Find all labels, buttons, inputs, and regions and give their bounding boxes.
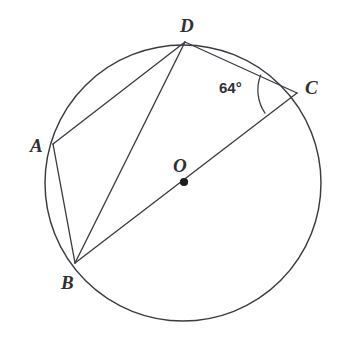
- chord-bd-line: [75, 42, 185, 263]
- angle-measure-label: 64°: [219, 80, 242, 95]
- chord-ab-line: [53, 144, 75, 263]
- vertex-label-b: B: [61, 273, 74, 292]
- center-point-dot: [180, 178, 188, 186]
- circle-geometry-canvas: [0, 0, 339, 342]
- geometry-figure: A B C D O 64°: [0, 0, 339, 342]
- vertex-label-d: D: [180, 16, 194, 35]
- vertex-label-c: C: [305, 78, 318, 97]
- center-label-o: O: [173, 156, 187, 175]
- vertex-label-a: A: [30, 136, 43, 155]
- chord-ad-line: [53, 42, 185, 144]
- angle-dcb-arc: [258, 75, 265, 113]
- diameter-bc-line: [75, 93, 297, 263]
